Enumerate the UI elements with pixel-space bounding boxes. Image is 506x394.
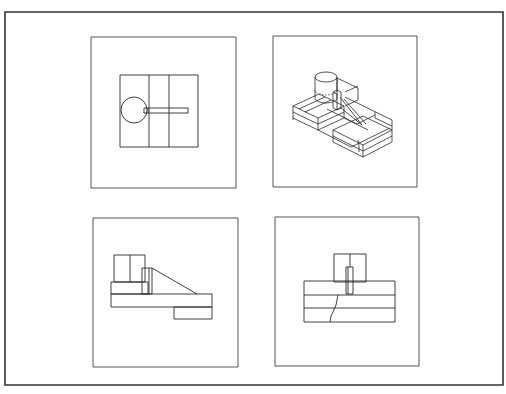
boss-circle <box>121 97 147 123</box>
lower-foot <box>174 307 212 319</box>
post <box>346 267 353 294</box>
side-view-frame <box>275 217 419 366</box>
isometric-geometry <box>293 72 392 157</box>
rib-post <box>142 268 152 294</box>
isometric-view-panel[interactable] <box>273 36 417 187</box>
front-view-frame <box>93 218 238 367</box>
boss-block <box>114 255 145 282</box>
top-view-geometry <box>120 75 198 147</box>
base-outline <box>120 75 198 147</box>
side-view-panel[interactable] <box>275 217 419 366</box>
front-view-panel[interactable] <box>93 218 238 367</box>
base-block <box>304 281 395 322</box>
base-plate <box>111 294 212 307</box>
side-view-geometry <box>304 254 395 322</box>
sheet-border <box>5 12 503 385</box>
break-line <box>330 295 338 322</box>
front-view-geometry <box>111 255 212 319</box>
rib-slope <box>152 268 197 294</box>
slot <box>144 108 188 113</box>
engineering-drawing-sheet <box>0 0 506 394</box>
top-view-panel[interactable] <box>91 37 236 188</box>
top-view-frame <box>91 37 236 188</box>
